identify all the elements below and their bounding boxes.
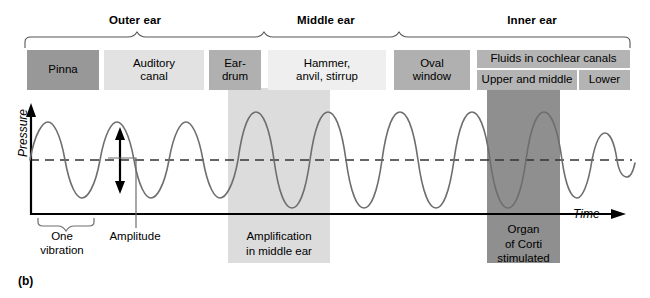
amplitude-leader-line bbox=[108, 158, 136, 228]
x-axis-label: Time bbox=[573, 207, 600, 221]
annotation-one-vibration: Onevibration bbox=[27, 229, 97, 257]
x-axis-arrowhead bbox=[611, 209, 626, 219]
panel-letter: (b) bbox=[18, 274, 33, 288]
annotation-amplification-in-middle-ear: Amplificationin middle ear bbox=[230, 229, 328, 258]
amplitude-arrowhead-up bbox=[115, 127, 125, 140]
ear-sound-wave-figure: Outer ear Middle ear Inner ear Pinna Aud… bbox=[0, 0, 650, 298]
y-axis-label: Pressure bbox=[16, 98, 30, 168]
amplitude-arrowhead-down bbox=[115, 181, 125, 194]
annotation-organ-of-corti-stimulated: Organof Cortistimulated bbox=[488, 222, 559, 266]
annotation-amplitude: Amplitude bbox=[88, 229, 182, 243]
